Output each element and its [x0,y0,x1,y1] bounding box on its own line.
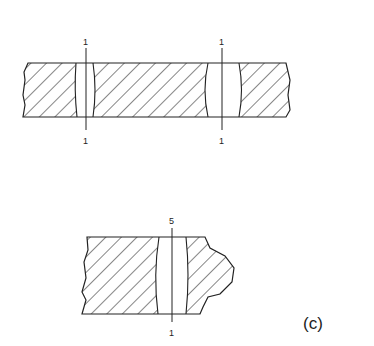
diagram: 1 1 1 1 5 1 (c) [0,0,374,346]
panel-label: (c) [303,314,323,333]
weld-1-bottom-label: 1 [83,136,88,146]
bottom-weld-top-label: 5 [169,216,174,226]
weld-2-bottom-label: 1 [219,136,224,146]
weld-2-top-label: 1 [219,37,224,47]
bottom-section: 5 1 [70,216,250,338]
bottom-weld-bottom-label: 1 [169,328,174,338]
weld-1-top-label: 1 [83,37,88,47]
top-section: 1 1 1 1 [0,37,374,146]
